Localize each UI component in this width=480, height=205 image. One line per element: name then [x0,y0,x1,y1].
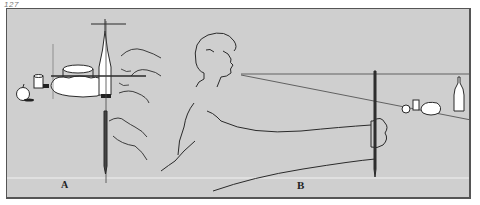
panel-label-b: B [297,179,304,191]
illustration-drawing [7,9,471,199]
illustration-panel: A B [6,8,471,199]
still-life-a [17,19,162,183]
panel-label-a: A [61,179,68,190]
figure-b [161,33,471,191]
